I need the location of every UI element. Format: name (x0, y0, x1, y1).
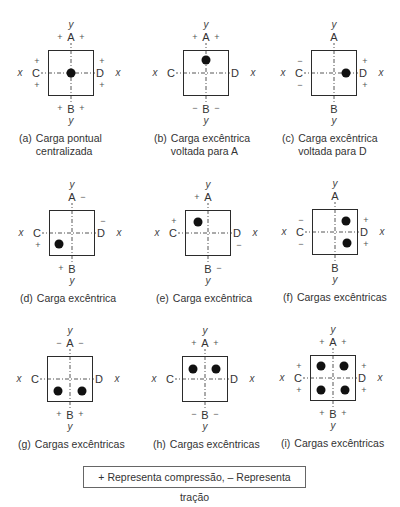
load-point (340, 362, 349, 371)
sign-B-1: + (319, 407, 324, 419)
load-point (317, 362, 326, 371)
caption-letter: (i) (281, 437, 290, 449)
sign-D-2: + (361, 384, 366, 396)
load-point (341, 386, 350, 395)
label-B: B (328, 408, 337, 420)
sign-A-1: + (319, 336, 324, 348)
caption-text: Cargas excêntricas (294, 437, 384, 450)
sign-B-2: + (341, 407, 346, 419)
axis-x-right: x (378, 372, 383, 384)
legend-box: + Representa compressão, – Representa tr… (83, 466, 306, 488)
caption-line: Cargas excêntricas (294, 437, 384, 450)
axis-y-bottom: y (331, 420, 336, 432)
sign-A-2: + (341, 336, 346, 348)
sign-C-1: + (296, 360, 301, 372)
sign-C-2: + (296, 384, 301, 396)
caption-i: (i)Cargas excêntricas (281, 437, 384, 450)
axis-y-top: y (331, 324, 336, 336)
sign-D-1: + (361, 360, 366, 372)
axis-x-left: x (280, 372, 285, 384)
label-A: A (328, 336, 337, 348)
load-point (317, 386, 326, 395)
label-C: C (293, 372, 303, 384)
label-D: D (357, 372, 367, 384)
